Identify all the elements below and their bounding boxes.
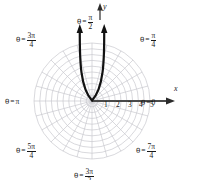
fraction-3pi-over-4: 3π4 <box>27 32 37 49</box>
fraction-pi-over-2: π2 <box>88 14 94 31</box>
theta-symbol: θ <box>77 18 81 26</box>
radial-tick-1: 1 <box>104 100 108 109</box>
theta-symbol: θ <box>16 36 20 44</box>
angle-label-pi-over-2: θ=π2 <box>77 14 93 31</box>
theta-symbol: θ <box>74 172 78 180</box>
angle-label-5pi-over-4: θ=5π4 <box>16 143 36 160</box>
equals-symbol: = <box>141 146 145 155</box>
theta-symbol: θ <box>16 147 20 155</box>
angle-label-7pi-over-4: θ=7π4 <box>136 143 156 160</box>
fraction-7pi-over-4: 7π4 <box>147 143 157 160</box>
radial-tick-5: 5 <box>150 100 154 109</box>
equals-symbol: = <box>21 146 25 155</box>
x-axis-label: x <box>174 84 178 93</box>
radial-tick-4: 4 <box>139 100 143 109</box>
theta-symbol: θ <box>5 98 9 106</box>
equals-symbol: = <box>10 97 14 106</box>
fraction-pi-over-4: π4 <box>151 32 157 49</box>
theta-symbol: θ <box>136 147 140 155</box>
fraction-5pi-over-4: 5π4 <box>27 143 37 160</box>
angle-label-3pi-over-2: θ=3π2 <box>74 168 94 180</box>
angle-label-3pi-over-4: θ=3π4 <box>16 32 36 49</box>
pi-symbol: π <box>16 97 20 106</box>
equals-symbol: = <box>145 35 149 44</box>
y-axis-arrow <box>97 3 103 20</box>
angle-label-pi-over-4: θ=π4 <box>140 32 156 49</box>
theta-symbol: θ <box>140 36 144 44</box>
angle-label-pi: θ=π <box>5 98 19 106</box>
equals-symbol: = <box>79 171 83 180</box>
radial-tick-3: 3 <box>128 100 132 109</box>
fraction-3pi-over-2: 3π2 <box>85 168 95 181</box>
y-axis-label: y <box>103 2 107 11</box>
radial-tick-2: 2 <box>116 100 120 109</box>
equals-symbol: = <box>21 35 25 44</box>
equals-symbol: = <box>82 17 86 26</box>
